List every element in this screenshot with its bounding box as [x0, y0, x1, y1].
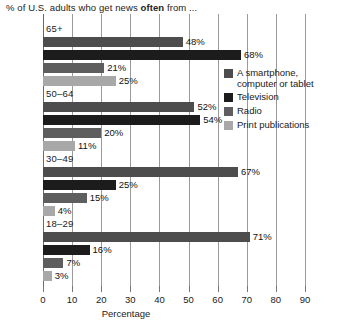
bar — [43, 50, 241, 60]
x-axis-tick — [189, 286, 190, 292]
bar — [43, 245, 90, 255]
bar-value-label: 16% — [93, 245, 112, 255]
bar-value-label: 11% — [78, 141, 96, 151]
x-axis-tick-label: 90 — [293, 294, 317, 305]
x-axis-tick — [101, 286, 102, 292]
x-axis-tick — [43, 286, 44, 292]
legend-swatch-icon — [224, 93, 233, 102]
bar — [43, 102, 194, 112]
bar-value-label: 48% — [186, 37, 205, 47]
bar-value-label: 15% — [90, 193, 109, 203]
x-axis-tick-label: 40 — [147, 294, 171, 305]
gridline — [305, 14, 306, 286]
group-label: 30–49 — [46, 153, 73, 164]
bar — [43, 128, 101, 138]
gridline — [276, 14, 277, 286]
x-axis-title: Percentage — [0, 308, 338, 319]
legend-swatch-icon — [224, 69, 233, 78]
bar — [43, 115, 200, 125]
x-axis-tick-label: 60 — [206, 294, 230, 305]
x-axis-tick-label: 30 — [118, 294, 142, 305]
legend-item[interactable]: Television — [224, 92, 338, 103]
x-axis-tick — [247, 286, 248, 292]
x-axis-tick — [159, 286, 160, 292]
x-axis-tick — [218, 286, 219, 292]
bar-value-label: 3% — [55, 271, 69, 281]
bar-value-label: 21% — [107, 63, 126, 73]
legend-label: A smartphone, computer or tablet — [237, 68, 338, 89]
bar-value-label: 67% — [241, 167, 260, 177]
legend-label: Print publications — [237, 120, 338, 131]
plot-area: 65+48%68%21%25%50–6452%54%20%11%30–4967%… — [0, 14, 338, 286]
chart-title-emphasis: often — [140, 2, 164, 13]
x-axis-title-label: Percentage — [102, 308, 151, 319]
bar — [43, 258, 63, 268]
bar — [43, 206, 55, 216]
chart-title-suffix: from ... — [164, 2, 197, 13]
x-axis-tick-label: 0 — [31, 294, 55, 305]
x-axis-tick-label: 70 — [235, 294, 259, 305]
legend-label: Television — [237, 92, 338, 103]
bar — [43, 167, 238, 177]
bar — [43, 76, 116, 86]
bar-value-label: 25% — [119, 180, 138, 190]
bar — [43, 271, 52, 281]
legend-item[interactable]: Print publications — [224, 120, 338, 131]
bar-chart: % of U.S. adults who get news often from… — [0, 0, 338, 328]
bar — [43, 37, 183, 47]
group-label: 50–64 — [46, 88, 73, 99]
bar — [43, 232, 250, 242]
bar-value-label: 52% — [197, 102, 216, 112]
legend-swatch-icon — [224, 121, 233, 130]
group-label: 65+ — [46, 23, 63, 34]
bar — [43, 63, 104, 73]
bar — [43, 193, 87, 203]
x-axis-tick-label: 50 — [177, 294, 201, 305]
x-axis-tick — [305, 286, 306, 292]
x-axis-tick — [130, 286, 131, 292]
x-axis-tick-label: 20 — [89, 294, 113, 305]
bar-value-label: 4% — [58, 206, 72, 216]
x-axis-tick — [276, 286, 277, 292]
bar-value-label: 68% — [244, 50, 263, 60]
x-axis-tick-label: 10 — [60, 294, 84, 305]
x-axis-tick-label: 80 — [264, 294, 288, 305]
chart-title: % of U.S. adults who get news often from… — [6, 2, 197, 13]
group-label: 18–29 — [46, 218, 73, 229]
chart-title-prefix: % of U.S. adults who get news — [6, 2, 140, 13]
bar-value-label: 71% — [253, 232, 272, 242]
bar — [43, 141, 75, 151]
legend-swatch-icon — [224, 107, 233, 116]
bar-value-label: 25% — [119, 76, 138, 86]
legend-item[interactable]: A smartphone, computer or tablet — [224, 68, 338, 89]
bar-value-label: 20% — [104, 128, 123, 138]
bar — [43, 180, 116, 190]
legend-label: Radio — [237, 106, 338, 117]
bar-value-label: 54% — [203, 115, 222, 125]
chart-legend: A smartphone, computer or tabletTelevisi… — [224, 68, 338, 134]
bar-value-label: 7% — [66, 258, 80, 268]
legend-item[interactable]: Radio — [224, 106, 338, 117]
x-axis-tick — [72, 286, 73, 292]
